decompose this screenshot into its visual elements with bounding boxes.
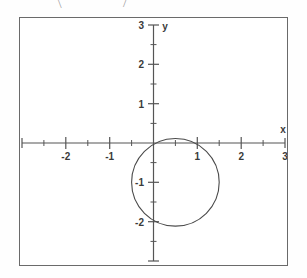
figure-page: \ / -2 bbox=[0, 0, 307, 278]
y-tick-label-2: 2 bbox=[138, 59, 144, 70]
x-axis-label: x bbox=[280, 124, 286, 135]
y-tick-label--1: -1 bbox=[135, 177, 144, 188]
x-tick-label--2: -2 bbox=[61, 151, 70, 162]
y-axis-label: y bbox=[162, 21, 168, 32]
x-tick-label--1: -1 bbox=[105, 151, 114, 162]
y-tick-label--2: -2 bbox=[135, 217, 144, 228]
scan-artifact-left: \ bbox=[58, 0, 62, 12]
scan-artifact-right: / bbox=[123, 0, 127, 11]
x-tick-label-2: 2 bbox=[238, 151, 244, 162]
x-axis: -2 -1 1 2 3 x bbox=[22, 124, 287, 162]
x-tick-label-3: 3 bbox=[282, 151, 287, 162]
y-tick-label-1: 1 bbox=[138, 99, 144, 110]
circle-plot-shape bbox=[132, 139, 220, 227]
x-tick-label-1: 1 bbox=[195, 151, 201, 162]
coordinate-plot: -2 -1 1 2 3 x bbox=[20, 18, 287, 265]
plot-frame: -2 -1 1 2 3 x bbox=[19, 17, 288, 266]
y-tick-label-3: 3 bbox=[138, 20, 144, 31]
curve-circle bbox=[132, 139, 220, 227]
